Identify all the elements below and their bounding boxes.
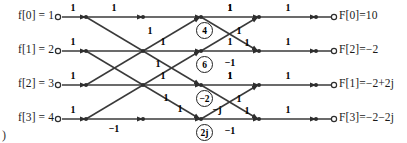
intermediate-value-row2: −2	[196, 90, 213, 107]
weight-stage2-straight-row0: 1	[219, 3, 241, 13]
weight-stage1-cross-d: 1	[172, 104, 188, 114]
output-label-F2: F[2]=−2	[339, 44, 378, 56]
weight-stage2-post-row1: 1	[277, 37, 299, 47]
output-label-F3: F[3]=−2−2j	[339, 112, 394, 124]
weight-stage1-post-row3: −j	[206, 105, 228, 115]
weight-stage1-post-row1: 1	[219, 37, 241, 47]
weight-stage2-straight-row2: 1	[219, 71, 241, 81]
input-label-f1: f[1] = 2	[0, 44, 54, 56]
weight-stage2-straight-row1: −1	[219, 58, 241, 68]
weight-stage0-row3: 1	[62, 105, 84, 115]
corner-artifact: )	[2, 128, 6, 143]
weight-stage1-cross-b: 1	[150, 59, 166, 69]
weight-stage2-cross-c: 1	[231, 94, 247, 104]
input-label-f3: f[3] = 4	[0, 112, 54, 124]
weight-stage0-row2: 1	[62, 71, 84, 81]
weight-stage2-cross-a: 1	[231, 26, 247, 36]
weight-stage2-straight-row3: −1	[219, 126, 241, 136]
intermediate-value-row3: 2j	[196, 124, 213, 141]
weight-stage2-post-row3: 1	[277, 105, 299, 115]
weight-stage1-straight-row2: 1	[152, 71, 174, 81]
output-label-F0: F[0]=10	[339, 10, 378, 22]
weight-stage1-cross-a: 1	[142, 26, 158, 36]
weight-stage2-cross-b: 1	[239, 38, 255, 48]
weight-stage0-row0: 1	[62, 3, 84, 13]
weight-stage2-post-row0: 1	[277, 3, 299, 13]
input-label-f2: f[2] = 3	[0, 78, 54, 90]
output-label-F1: F[1]=−2+2j	[339, 78, 394, 90]
weight-stage1-straight-row1: 1	[152, 37, 174, 47]
intermediate-value-row1: 6	[196, 56, 213, 73]
intermediate-value-row0: 4	[196, 22, 213, 39]
weight-stage1-straight-row3: −1	[103, 124, 125, 134]
weight-stage1-cross-c: 1	[158, 93, 174, 103]
weight-stage0-row1: 1	[62, 37, 84, 47]
weight-stage2-cross-d: 1	[239, 106, 255, 116]
input-label-f0: f[0] = 1	[0, 10, 54, 22]
fft-butterfly-figure: f[0] = 1 f[1] = 2 f[2] = 3 f[3] = 4 F[0]…	[0, 0, 407, 143]
weight-stage1-straight-row0: 1	[103, 3, 125, 13]
weight-stage2-post-row2: 1	[277, 71, 299, 81]
